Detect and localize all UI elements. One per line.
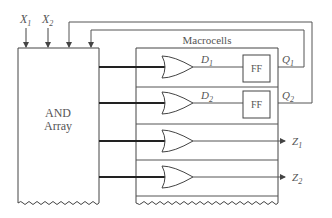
macrocells-title: Macrocells — [183, 34, 232, 46]
svg-text:Z1: Z1 — [292, 135, 302, 150]
svg-text:FF: FF — [251, 63, 263, 74]
and-array-label-1: AND — [45, 106, 71, 120]
input-x2: X2 — [41, 12, 53, 47]
and-array: AND Array — [18, 48, 99, 205]
and-array-label-2: Array — [44, 119, 72, 133]
pld-diagram: X1 X2 AND Array Macrocells D1 FF Q1 — [0, 0, 332, 218]
svg-text:Q1: Q1 — [282, 53, 294, 68]
svg-text:X1: X1 — [19, 12, 31, 28]
svg-text:FF: FF — [251, 99, 263, 110]
svg-text:Z2: Z2 — [292, 171, 302, 186]
svg-text:X2: X2 — [41, 12, 53, 28]
input-x1: X1 — [19, 12, 31, 47]
svg-text:Q2: Q2 — [282, 89, 294, 104]
